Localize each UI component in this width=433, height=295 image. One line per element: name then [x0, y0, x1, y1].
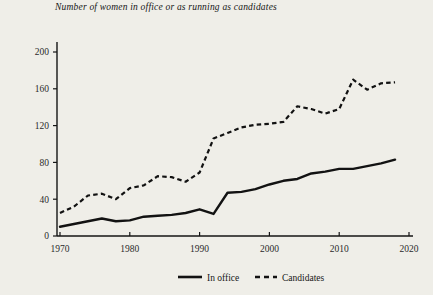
x-tick-label: 1980 [120, 244, 139, 254]
y-tick-label: 80 [40, 158, 50, 168]
x-axis: 197019801990200020102020 [51, 232, 419, 254]
x-tick-label: 2010 [330, 244, 349, 254]
y-tick-label: 40 [40, 195, 50, 205]
y-axis: 04080120160200 [35, 42, 57, 241]
y-tick-label: 200 [35, 47, 50, 57]
x-tick-label: 2000 [260, 244, 279, 254]
data-series-group [60, 80, 395, 227]
chart-container: Number of women in office or as running … [0, 0, 433, 295]
legend-label-in-office: In office [207, 273, 239, 283]
line-chart-plot: 04080120160200 197019801990200020102020 … [0, 0, 433, 295]
y-tick-label: 160 [35, 84, 50, 94]
series-line-in-office [60, 160, 395, 227]
y-tick-label: 0 [44, 231, 49, 241]
legend-label-candidates: Candidates [282, 273, 325, 283]
x-tick-label: 2020 [400, 244, 419, 254]
x-tick-label: 1970 [51, 244, 70, 254]
y-tick-label: 120 [35, 121, 50, 131]
chart-legend: In officeCandidates [178, 273, 325, 283]
x-tick-label: 1990 [190, 244, 209, 254]
